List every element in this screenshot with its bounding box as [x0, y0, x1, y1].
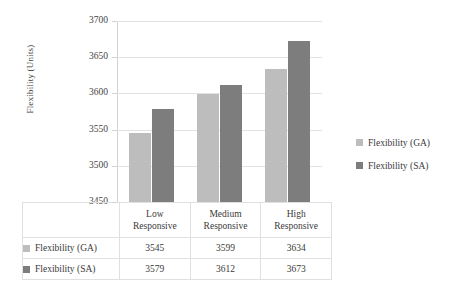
bar-sa-1: [220, 85, 242, 202]
y-axis-tick: [112, 57, 117, 58]
category-label-line1: High: [261, 208, 331, 220]
table-cell-ga-1: 3599: [190, 238, 261, 259]
y-axis-tick: [112, 202, 117, 203]
y-axis-tick-label: 3650: [64, 51, 108, 61]
category-header-2: HighResponsive: [261, 203, 332, 238]
y-axis-tick: [112, 21, 117, 22]
bar-sa-2: [288, 41, 310, 202]
bar-ga-0: [129, 133, 151, 202]
table-row: Flexibility (GA)354535993634: [23, 238, 332, 259]
bar-ga-2: [265, 69, 287, 202]
y-axis-tick: [112, 93, 117, 94]
data-table: LowResponsiveMediumResponsiveHighRespons…: [22, 202, 332, 280]
table-row-label: Flexibility (SA): [35, 264, 95, 274]
y-axis-tick: [112, 130, 117, 131]
table-cell-sa-0: 3579: [120, 259, 191, 280]
category-header-0: LowResponsive: [120, 203, 191, 238]
table-cell-sa-1: 3612: [190, 259, 261, 280]
y-axis-tick-label: 3550: [64, 124, 108, 134]
y-axis-tick: [112, 166, 117, 167]
category-label-line1: Low: [120, 208, 190, 220]
category-label-line2: Responsive: [191, 220, 261, 232]
y-axis-tick-label: 3500: [64, 160, 108, 170]
table-corner-cell: [23, 203, 120, 238]
table-row: Flexibility (SA)357936123673: [23, 259, 332, 280]
data-table-body: LowResponsiveMediumResponsiveHighRespons…: [23, 203, 332, 280]
table-cell-sa-2: 3673: [261, 259, 332, 280]
table-row-label: Flexibility (GA): [35, 243, 97, 253]
category-label-line2: Responsive: [261, 220, 331, 232]
table-row-header-ga: Flexibility (GA): [23, 238, 120, 259]
category-label-line2: Responsive: [120, 220, 190, 232]
table-swatch-ga-icon: [23, 245, 30, 252]
legend-entry-ga: Flexibility (GA): [356, 131, 457, 154]
legend-label: Flexibility (GA): [368, 138, 430, 148]
category-label-line1: Medium: [191, 208, 261, 220]
table-cell-ga-0: 3545: [120, 238, 191, 259]
bar-ga-1: [197, 94, 219, 202]
category-header-row: LowResponsiveMediumResponsiveHighRespons…: [23, 203, 332, 238]
chart-legend: Flexibility (GA)Flexibility (SA): [356, 131, 457, 177]
y-axis-tick-label: 3600: [64, 87, 108, 97]
category-header-1: MediumResponsive: [190, 203, 261, 238]
legend-label: Flexibility (SA): [368, 161, 428, 171]
table-swatch-sa-icon: [23, 266, 30, 273]
legend-swatch-sa: [356, 162, 363, 169]
bar-chart-figure: Flexibility (Units) 37003650360035503500…: [0, 0, 457, 303]
y-axis-tick-label: 3700: [64, 15, 108, 25]
table-row-header-sa: Flexibility (SA): [23, 259, 120, 280]
table-cell-ga-2: 3634: [261, 238, 332, 259]
legend-entry-sa: Flexibility (SA): [356, 154, 457, 177]
bar-sa-0: [152, 109, 174, 202]
y-axis-title: Flexibility (Units): [25, 9, 35, 149]
bars-layer: [117, 21, 322, 202]
legend-swatch-ga: [356, 139, 363, 146]
